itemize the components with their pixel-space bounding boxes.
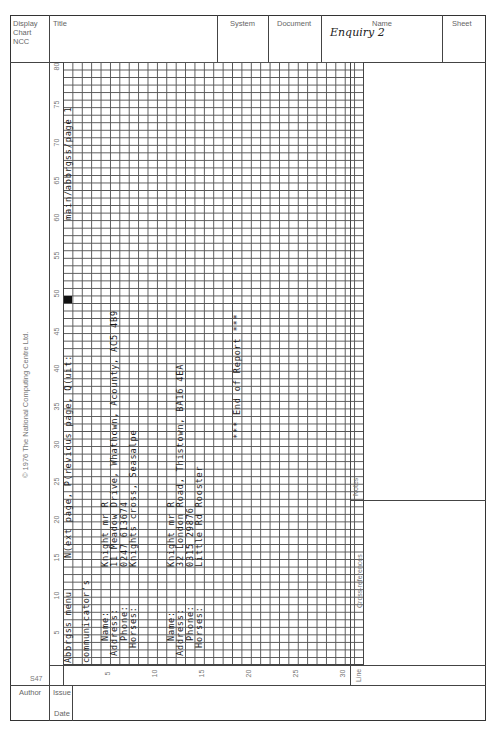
form-type-line-3: NCC — [13, 37, 38, 46]
row-label-45: 45 — [53, 325, 60, 339]
row-label-50: 50 — [53, 287, 60, 301]
footer-top-divider — [10, 685, 486, 686]
grid-entry: Knights cross, Seasalpe — [129, 430, 138, 567]
filled-cursor-cell — [64, 296, 73, 303]
author-label: Author — [19, 688, 41, 697]
form-type-line-2: Chart — [13, 28, 38, 37]
sheet-field[interactable] — [445, 30, 483, 58]
row-label-55: 55 — [53, 249, 60, 263]
grid-entry: Abbrgss menu — [64, 591, 73, 663]
col-label-15: 15 — [198, 667, 205, 681]
grid-entry: Horses: — [195, 606, 204, 648]
row-label-35: 35 — [53, 400, 60, 414]
row-label-60: 60 — [53, 211, 60, 225]
date-label: Date — [54, 709, 70, 718]
row-label-80: 80 — [53, 60, 60, 74]
right-panel-divider — [350, 62, 351, 685]
col-label-10: 10 — [151, 667, 158, 681]
row-label-25: 25 — [53, 475, 60, 489]
left-column-divider — [49, 15, 50, 721]
issue-field[interactable] — [75, 687, 483, 702]
col-label-20: 20 — [245, 667, 252, 681]
sheet-label: Sheet — [452, 19, 472, 28]
row-label-15: 15 — [53, 551, 60, 565]
issue-label: Issue — [53, 688, 71, 697]
col-label-25: 25 — [292, 667, 299, 681]
name-sheet-divider — [442, 15, 443, 62]
document-field[interactable] — [271, 30, 318, 58]
grid-entry: main/abbrgss/page 1 — [64, 106, 73, 220]
form-type-line-1: Display — [13, 19, 38, 28]
title-field[interactable] — [53, 30, 213, 58]
grid-entry: Address: — [176, 608, 185, 656]
line-label: Line — [355, 669, 362, 682]
grid-entry: 32 London Road, Thistown, BA16 4EA — [176, 364, 185, 567]
document-name-divider — [321, 15, 322, 62]
grid-entry: Little Rd Rooster — [195, 465, 204, 567]
grid-entry-end-of-report: *** End of Report *** — [233, 314, 242, 439]
title-label: Title — [53, 19, 67, 28]
row-label-40: 40 — [53, 362, 60, 376]
copyright-text: © 1976 The National Computing Centre Ltd… — [21, 332, 30, 478]
document-label: Document — [277, 19, 311, 28]
grid-entry: 11 Meadow Drive, Whathown, Acounty, AC5 … — [110, 310, 119, 567]
grid-entry: communicator's — [82, 579, 91, 663]
row-label-10: 10 — [53, 589, 60, 603]
form-code: S47 — [30, 674, 42, 683]
col-label-5: 5 — [104, 667, 111, 681]
notes-field[interactable] — [362, 64, 482, 498]
notes-label: Notes — [352, 478, 359, 496]
form-type-label: Display Chart NCC — [13, 19, 38, 46]
row-label-5: 5 — [53, 626, 60, 640]
system-document-divider — [268, 15, 269, 62]
system-field[interactable] — [220, 30, 265, 58]
row-label-75: 75 — [53, 98, 60, 112]
col-label-30: 30 — [339, 667, 346, 681]
date-field[interactable] — [75, 704, 483, 719]
row-label-20: 20 — [53, 513, 60, 527]
author-field[interactable] — [12, 698, 47, 718]
row-label-70: 70 — [53, 136, 60, 150]
line-field[interactable] — [366, 667, 482, 683]
row-label-65: 65 — [53, 174, 60, 188]
grid-entry: Horses: — [129, 606, 138, 648]
issue-date-divider — [72, 685, 73, 721]
notes-crossref-divider — [350, 500, 486, 501]
title-system-divider — [217, 15, 218, 62]
grid-entry: N(ext page, P(revious page, Q(uit: — [64, 355, 73, 558]
crossref-line-divider — [350, 665, 486, 666]
cross-references-field[interactable] — [366, 502, 482, 662]
cross-references-label: Cross-references — [356, 554, 363, 608]
system-label: System — [230, 19, 255, 28]
name-field[interactable]: Enquiry 2 — [330, 26, 385, 39]
row-label-30: 30 — [53, 438, 60, 452]
grid-entry: Address: — [110, 608, 119, 656]
